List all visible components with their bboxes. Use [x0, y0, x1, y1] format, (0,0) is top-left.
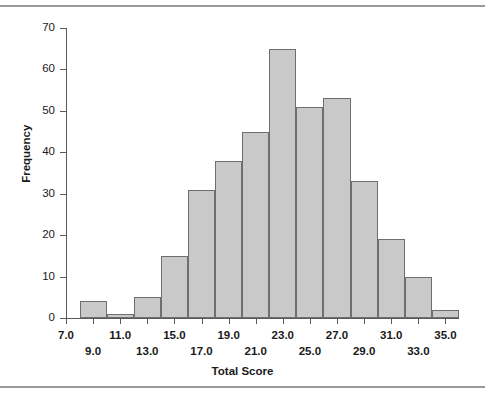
x-tick-label-33.0: 33.0 — [393, 346, 443, 358]
x-axis-title: Total Score — [0, 366, 485, 378]
y-tick-50: 50 — [0, 111, 66, 112]
histogram-bar — [161, 256, 188, 318]
x-tick-mark — [202, 318, 203, 324]
y-tick-label: 60 — [15, 63, 55, 75]
x-tick-label-13.0: 13.0 — [122, 346, 172, 358]
y-tick-label: 10 — [15, 271, 55, 283]
x-tick-label-9.0: 9.0 — [68, 346, 118, 358]
y-tick-mark — [60, 235, 66, 236]
x-tick-label-35.0: 35.0 — [420, 330, 470, 342]
histogram-bar — [188, 190, 215, 318]
x-tick-label-21.0: 21.0 — [231, 346, 281, 358]
y-tick-60: 60 — [0, 69, 66, 70]
histogram-bar — [80, 301, 107, 318]
y-tick-0: 0 — [0, 318, 66, 319]
x-tick-mark — [174, 318, 175, 324]
x-tick-mark — [147, 318, 148, 324]
y-tick-mark — [60, 111, 66, 112]
x-tick-mark — [66, 318, 67, 324]
histogram-bar — [134, 297, 161, 318]
x-tick-label-17.0: 17.0 — [177, 346, 227, 358]
y-axis-line — [66, 28, 67, 319]
x-tick-mark — [364, 318, 365, 324]
x-tick-mark — [391, 318, 392, 324]
histogram-figure: 010203040506070 7.09.011.013.015.017.019… — [0, 0, 485, 394]
histogram-bar — [107, 314, 134, 318]
x-tick-mark — [120, 318, 121, 324]
x-tick-mark — [418, 318, 419, 324]
x-tick-mark — [310, 318, 311, 324]
histogram-bar — [215, 161, 242, 318]
y-tick-20: 20 — [0, 235, 66, 236]
x-tick-label-19.0: 19.0 — [204, 330, 254, 342]
x-tick-label-25.0: 25.0 — [285, 346, 335, 358]
y-tick-label: 70 — [15, 22, 55, 34]
histogram-bar — [378, 239, 405, 318]
y-tick-mark — [60, 28, 66, 29]
x-tick-mark — [337, 318, 338, 324]
x-tick-label-23.0: 23.0 — [258, 330, 308, 342]
y-tick-10: 10 — [0, 277, 66, 278]
y-tick-mark — [60, 69, 66, 70]
histogram-bar — [351, 181, 378, 318]
x-axis-line — [66, 318, 459, 319]
x-tick-mark — [256, 318, 257, 324]
y-axis-title: Frequency — [21, 94, 33, 214]
histogram-bar — [432, 310, 459, 318]
histogram-bar — [269, 49, 296, 318]
x-tick-mark — [445, 318, 446, 324]
x-tick-mark — [93, 318, 94, 324]
x-tick-mark — [229, 318, 230, 324]
histogram-bar — [405, 277, 432, 318]
plot-area: 010203040506070 7.09.011.013.015.017.019… — [0, 0, 485, 394]
y-tick-mark — [60, 277, 66, 278]
y-tick-30: 30 — [0, 194, 66, 195]
y-tick-70: 70 — [0, 28, 66, 29]
x-tick-label-11.0: 11.0 — [95, 330, 145, 342]
y-tick-40: 40 — [0, 152, 66, 153]
y-tick-label: 0 — [15, 312, 55, 324]
x-tick-label-31.0: 31.0 — [366, 330, 416, 342]
y-tick-label: 20 — [15, 229, 55, 241]
y-tick-mark — [60, 152, 66, 153]
histogram-bar — [323, 98, 350, 318]
x-tick-label-27.0: 27.0 — [312, 330, 362, 342]
y-tick-mark — [60, 194, 66, 195]
x-tick-label-29.0: 29.0 — [339, 346, 389, 358]
x-tick-label-7.0: 7.0 — [41, 330, 91, 342]
histogram-bar — [242, 132, 269, 318]
x-tick-label-15.0: 15.0 — [149, 330, 199, 342]
histogram-bar — [296, 107, 323, 318]
x-tick-mark — [283, 318, 284, 324]
